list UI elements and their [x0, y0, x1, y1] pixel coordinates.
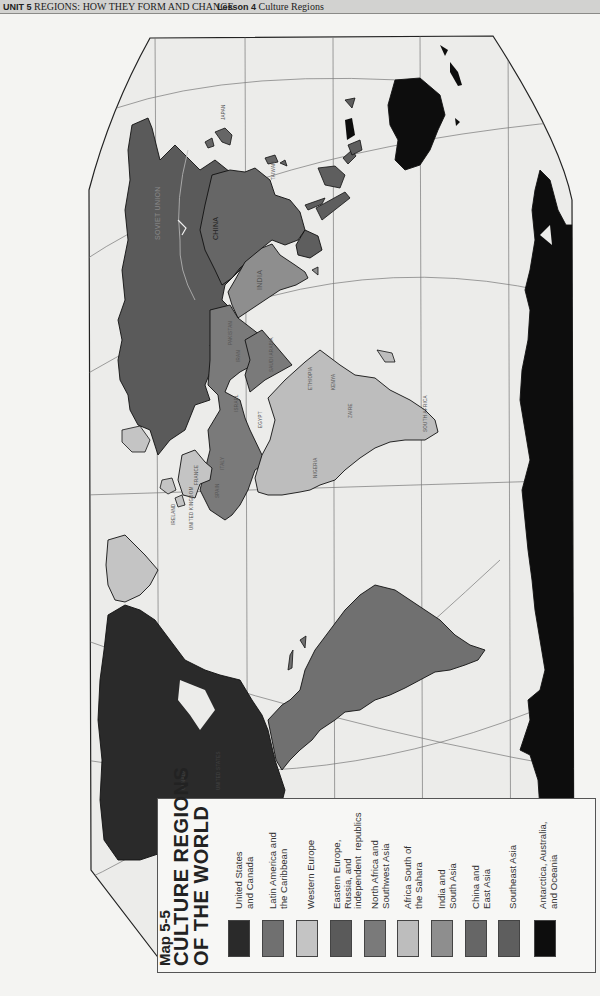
- label-south-africa: SOUTH AFRICA: [423, 395, 428, 432]
- label-ireland: IRELAND: [171, 503, 176, 525]
- map-legend: Map 5-5 CULTURE REGIONS OF THE WORLD Uni…: [157, 798, 596, 973]
- label-taiwan: TAIWAN: [271, 161, 276, 180]
- label-spain: SPAIN: [215, 483, 220, 498]
- legend-swatch-antarctica: [534, 920, 556, 957]
- legend-swatch-latin-america: [262, 920, 284, 957]
- legend-label-antarctica: Antarctica, Australia, and Oceania: [538, 822, 559, 909]
- legend-label-us-canada: United States and Canada: [234, 851, 255, 909]
- legend-swatch-china: [465, 920, 487, 957]
- label-saudi-arabia: SAUDI ARABIA: [269, 337, 274, 372]
- legend-label-latin-america: Latin America and the Caribbean: [268, 832, 289, 909]
- label-china: CHINA: [212, 217, 219, 240]
- label-italy: ITALY: [220, 457, 225, 470]
- legend-swatch-india: [431, 920, 453, 957]
- legend-label-southeast-asia: Southeast Asia: [508, 845, 519, 909]
- label-iran: IRAN: [236, 350, 241, 362]
- legend-label-western-europe: Western Europe: [306, 840, 317, 909]
- legend-label-eastern-europe: Eastern Europe, Russia, and independent …: [332, 812, 364, 909]
- label-pakistan: PAKISTAN: [228, 321, 233, 345]
- label-japan: JAPAN: [221, 104, 226, 120]
- legend-label-china: China and East Asia: [471, 865, 492, 909]
- label-united-kingdom: UNITED KINGDOM: [189, 486, 194, 530]
- label-ethiopia: ETHIOPIA: [308, 367, 313, 390]
- legend-swatch-north-africa: [364, 920, 386, 957]
- legend-swatch-western-europe: [296, 920, 318, 957]
- label-kenya: KENYA: [331, 374, 336, 390]
- label-france: FRANCE: [194, 465, 199, 485]
- label-united-states: UNITED STATES: [216, 751, 221, 790]
- legend-label-north-africa: North Africa and Southwest Asia: [370, 840, 391, 909]
- label-soviet-union: SOVIET UNION: [154, 186, 161, 240]
- legend-swatch-southeast-asia: [498, 920, 520, 957]
- label-india: INDIA: [256, 270, 263, 290]
- legend-swatch-us-canada: [228, 920, 250, 957]
- legend-swatch-eastern-europe: [330, 920, 352, 957]
- label-israel: ISRAEL: [234, 394, 239, 412]
- label-zaire: ZAIRE: [348, 403, 353, 418]
- legend-title-line2: OF THE WORLD: [190, 806, 213, 966]
- legend-label-india: India and South Asia: [437, 863, 458, 909]
- legend-swatch-africa-south: [397, 920, 419, 957]
- legend-label-africa-south: Africa South of the Sahara: [403, 846, 424, 909]
- label-nigeria: NIGERIA: [313, 457, 318, 478]
- label-egypt: EGYPT: [258, 411, 263, 428]
